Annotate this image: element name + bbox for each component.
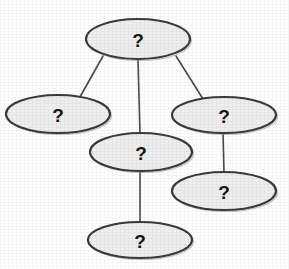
- node-link-diagram: ??????: [0, 0, 289, 269]
- edge-root-middle: [138, 59, 140, 134]
- node-left-label: ?: [52, 105, 64, 126]
- node-left[interactable]: ?: [6, 95, 112, 135]
- node-root-label: ?: [132, 30, 144, 51]
- node-root[interactable]: ?: [86, 19, 192, 61]
- node-right-label: ?: [218, 106, 230, 127]
- node-bottom[interactable]: ?: [88, 222, 194, 260]
- edge-root-right: [176, 56, 203, 99]
- nodes-layer: ??????: [6, 19, 278, 260]
- node-right[interactable]: ?: [172, 97, 278, 135]
- node-bottom-label: ?: [134, 231, 146, 252]
- edge-right-lower-right: [223, 132, 224, 173]
- node-middle-label: ?: [135, 143, 147, 164]
- node-middle[interactable]: ?: [90, 133, 194, 173]
- node-lower-right-label: ?: [218, 182, 230, 203]
- node-lower-right[interactable]: ?: [172, 172, 278, 212]
- edge-root-left: [80, 56, 103, 97]
- diagram-canvas: ??????: [0, 0, 289, 269]
